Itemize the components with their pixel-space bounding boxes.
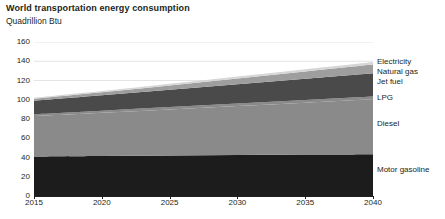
y-tick-label: 40 <box>21 154 30 162</box>
x-axis-tick <box>34 196 35 199</box>
x-tick-label: 2040 <box>364 199 382 207</box>
x-axis-tick <box>237 196 238 199</box>
y-tick-label: 160 <box>17 38 30 46</box>
legend-item-natural-gas: Natural gas <box>377 68 418 76</box>
x-tick-label: 2030 <box>228 199 246 207</box>
chart-title: World transportation energy consumption <box>6 3 190 13</box>
x-tick-label: 2035 <box>296 199 314 207</box>
y-tick-label: 80 <box>21 115 30 123</box>
x-axis-tick <box>305 196 306 199</box>
stacked-area-plot <box>34 42 373 196</box>
legend-item-electricity: Electricity <box>377 58 411 66</box>
x-axis-tick <box>170 196 171 199</box>
legend-item-lpg: LPG <box>377 94 393 102</box>
chart-subtitle: Quadrillion Btu <box>6 16 62 26</box>
x-tick-label: 2015 <box>25 199 43 207</box>
chart-legend: ElectricityNatural gasJet fuelLPGDieselM… <box>377 42 445 196</box>
chart-container: World transportation energy consumption … <box>0 0 445 219</box>
legend-item-jet-fuel: Jet fuel <box>377 78 403 86</box>
x-axis-tick <box>373 196 374 199</box>
legend-item-motor-gasoline: Motor gasoline <box>377 166 429 174</box>
y-tick-label: 60 <box>21 134 30 142</box>
y-tick-label: 140 <box>17 57 30 65</box>
x-axis-tick <box>102 196 103 199</box>
y-tick-label: 100 <box>17 96 30 104</box>
y-tick-label: 120 <box>17 77 30 85</box>
x-tick-label: 2025 <box>161 199 179 207</box>
x-tick-label: 2020 <box>93 199 111 207</box>
x-axis: 201520202025203020352040 <box>34 199 373 213</box>
x-axis-line <box>34 196 374 197</box>
y-axis: 020406080100120140160 <box>0 42 30 196</box>
area-series-motor-gasoline <box>34 154 373 196</box>
y-tick-label: 20 <box>21 173 30 181</box>
legend-item-diesel: Diesel <box>377 120 399 128</box>
plot-area <box>34 42 373 196</box>
